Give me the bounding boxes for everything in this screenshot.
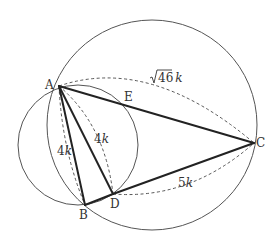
svg-text:4k: 4k bbox=[94, 132, 109, 146]
label-ab-length: 4k bbox=[57, 144, 72, 158]
point-label-c: C bbox=[256, 136, 265, 150]
point-label-b: B bbox=[79, 208, 88, 222]
geometry-diagram: A E C B D 4k 4k 5k 46k bbox=[0, 0, 276, 249]
point-label-a: A bbox=[44, 78, 54, 92]
segment-bd bbox=[85, 194, 113, 205]
svg-text:4k: 4k bbox=[57, 144, 72, 158]
point-label-e: E bbox=[124, 90, 133, 104]
point-label-d: D bbox=[110, 197, 120, 211]
label-dc-length: 5k bbox=[178, 176, 193, 190]
segment-ac bbox=[59, 86, 254, 143]
label-ac-length: 46k bbox=[150, 70, 183, 85]
svg-text:5k: 5k bbox=[178, 176, 193, 190]
measure-arc-ac bbox=[59, 78, 254, 143]
svg-text:46k: 46k bbox=[158, 71, 183, 85]
label-ad-length: 4k bbox=[94, 132, 109, 146]
